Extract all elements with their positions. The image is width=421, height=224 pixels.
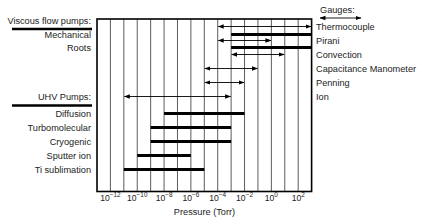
pump-label-sputter-ion: Sputter ion — [47, 151, 91, 161]
x-tick-label: 102 — [292, 191, 306, 203]
x-axis-label: Pressure (Torr) — [174, 207, 235, 217]
pump-label-cryogenic: Cryogenic — [50, 137, 92, 147]
gauge-label-thermocouple: Thermocouple — [316, 22, 375, 32]
gauge-label-ion: Ion — [316, 92, 329, 102]
gauge-label-convection: Convection — [316, 50, 362, 60]
x-axis-ticks: 10−1210−1010−810−610−410−2100102 — [100, 191, 305, 203]
section-title-gauges: Gauges: — [320, 5, 355, 15]
x-tick-label: 10−4 — [209, 191, 226, 203]
vacuum-range-diagram: 10−1210−1010−810−610−410−2100102 Mechani… — [0, 0, 421, 224]
pump-label-diffusion: Diffusion — [55, 109, 91, 119]
gauge-label-penning: Penning — [316, 78, 350, 88]
pump-label-mechanical: Mechanical — [45, 30, 91, 40]
x-tick-label: 10−6 — [182, 191, 199, 203]
gauge-label-capacitance-manometer: Capacitance Manometer — [316, 64, 416, 74]
pump-label-ti-sublimation: Ti sublimation — [35, 165, 91, 175]
x-tick-label: 10−10 — [127, 191, 148, 203]
pump-label-turbomolecular: Turbomolecular — [28, 123, 92, 133]
x-tick-label: 100 — [265, 191, 279, 203]
x-tick-label: 10−12 — [100, 191, 121, 203]
pump-label-roots: Roots — [67, 43, 91, 53]
gridlines — [110, 19, 298, 192]
x-tick-label: 10−8 — [156, 191, 173, 203]
x-tick-label: 10−2 — [236, 191, 253, 203]
section-title-uhv: UHV Pumps: — [38, 92, 91, 102]
section-title-viscous: Viscous flow pumps: — [7, 16, 91, 26]
gauge-label-pirani: Pirani — [316, 36, 340, 46]
